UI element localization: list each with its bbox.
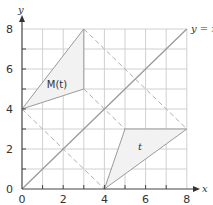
y-tick-4: 4 [6,103,13,116]
y-tick-8: 8 [6,23,13,36]
y-tick-6: 6 [6,63,13,76]
y-axis-arrow-icon [19,15,25,22]
y-axis-label: y [17,4,24,15]
x-tick-6: 6 [142,193,149,205]
x-tick-8: 8 [183,193,190,205]
line-label: y = x [190,23,213,34]
x-tick-0: 0 [19,193,26,205]
y-tick-0: 0 [6,183,13,196]
x-tick-2: 2 [60,193,67,205]
reflection-diagram: 0 2 4 6 8 0 2 4 6 8 x y y = x M(t) t [0,0,213,205]
x-tick-4: 4 [101,193,108,205]
y-tick-2: 2 [6,143,13,156]
x-axis-arrow-icon [193,186,200,192]
x-axis-label: x [202,183,208,194]
region-mt-label: M(t) [47,79,67,90]
